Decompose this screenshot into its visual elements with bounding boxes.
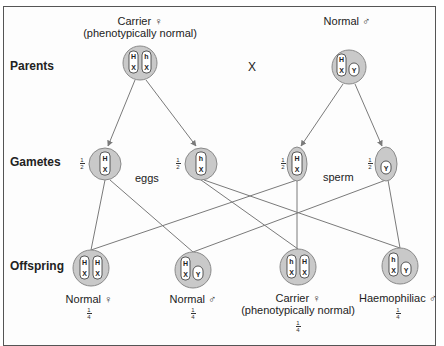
fraction-normal-male: 14 (190, 307, 196, 320)
offspring-label-carrier-female: Carrier ♀ (276, 292, 321, 304)
offspring-normal-male: H X Y (175, 252, 211, 288)
offspring-sublabel-carrier-female: (phenotypically normal) (241, 304, 355, 316)
sperm-label: sperm (323, 171, 354, 183)
svg-text:H: H (95, 259, 100, 266)
offspring-normal-female: H X H X (73, 250, 109, 286)
parent-arrows (108, 80, 382, 146)
row-label-gametes: Gametes (10, 156, 61, 169)
fraction-sperm-H: 12 (280, 157, 286, 170)
offspring-label-normal-female: Normal ♀ (66, 293, 113, 305)
svg-text:Y: Y (404, 267, 409, 274)
mother-label: Carrier ♀ (118, 15, 163, 27)
offspring-label-normal-male: Normal ♂ (170, 293, 217, 305)
svg-text:h: h (144, 53, 148, 60)
svg-text:h: h (391, 256, 395, 263)
svg-text:X: X (131, 64, 136, 71)
svg-text:X: X (103, 166, 108, 173)
father-cell: H X Y (332, 50, 366, 84)
row-label-parents: Parents (10, 60, 54, 73)
svg-text:H: H (82, 259, 87, 266)
svg-text:X: X (95, 270, 100, 277)
fraction-haemophiliac-male: 14 (395, 307, 401, 320)
fraction-egg-h: 12 (175, 157, 181, 170)
fraction-carrier-female: 14 (295, 320, 301, 333)
offspring-haemophiliac-male: h X Y (382, 248, 418, 284)
svg-text:H: H (339, 56, 344, 63)
fraction-normal-female: 14 (86, 307, 92, 320)
svg-text:H: H (183, 260, 188, 267)
egg-H: H X (89, 148, 121, 180)
offspring-label-haemophiliac-male: Haemophiliac ♂ (359, 292, 437, 304)
svg-text:H: H (131, 53, 136, 60)
svg-text:Y: Y (384, 165, 389, 172)
sperm-H: H X (287, 147, 307, 181)
fraction-sperm-Y: 12 (367, 157, 373, 170)
svg-text:X: X (289, 269, 294, 276)
svg-text:X: X (339, 67, 344, 74)
svg-text:X: X (295, 166, 300, 173)
svg-text:X: X (391, 267, 396, 274)
svg-text:X: X (302, 269, 307, 276)
mother-cell: H X h X (123, 46, 157, 80)
svg-text:X: X (183, 271, 188, 278)
mother-sublabel: (phenotypically normal) (83, 27, 197, 39)
svg-text:h: h (289, 258, 293, 265)
svg-text:H: H (302, 258, 307, 265)
fraction-egg-H: 12 (79, 157, 85, 170)
svg-text:X: X (82, 270, 87, 277)
fertilisation-lines (91, 180, 400, 252)
eggs-label: eggs (135, 172, 159, 184)
cross-symbol: X (248, 61, 256, 73)
offspring-carrier-female: h X H X (280, 249, 316, 285)
egg-h: h X (185, 148, 217, 180)
svg-text:X: X (144, 64, 149, 71)
svg-text:Y: Y (196, 271, 201, 278)
father-label: Normal ♂ (324, 15, 371, 27)
row-label-offspring: Offspring (10, 260, 64, 273)
svg-text:h: h (199, 155, 203, 162)
svg-text:Y: Y (352, 67, 357, 74)
sperm-Y: Y (375, 147, 397, 181)
svg-text:H: H (102, 155, 107, 162)
svg-text:X: X (199, 166, 204, 173)
svg-text:H: H (294, 155, 299, 162)
